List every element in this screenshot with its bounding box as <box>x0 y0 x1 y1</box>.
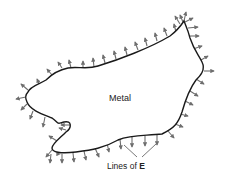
metal-field-diagram: Metal Lines of E <box>0 0 229 186</box>
label-pointer-lines <box>124 144 156 157</box>
metal-label: Metal <box>109 93 131 103</box>
lines-of-e-label: Lines of E <box>107 161 145 171</box>
metal-outline <box>26 21 203 153</box>
